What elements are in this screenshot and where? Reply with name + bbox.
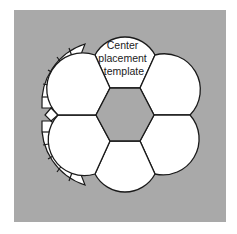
- label-line-3: template: [104, 65, 144, 77]
- diagram: Center placement template: [0, 0, 237, 234]
- label-line-2: placement: [98, 52, 147, 64]
- placement-template-diagram: Center placement template: [0, 0, 237, 234]
- label-line-1: Center: [107, 39, 139, 51]
